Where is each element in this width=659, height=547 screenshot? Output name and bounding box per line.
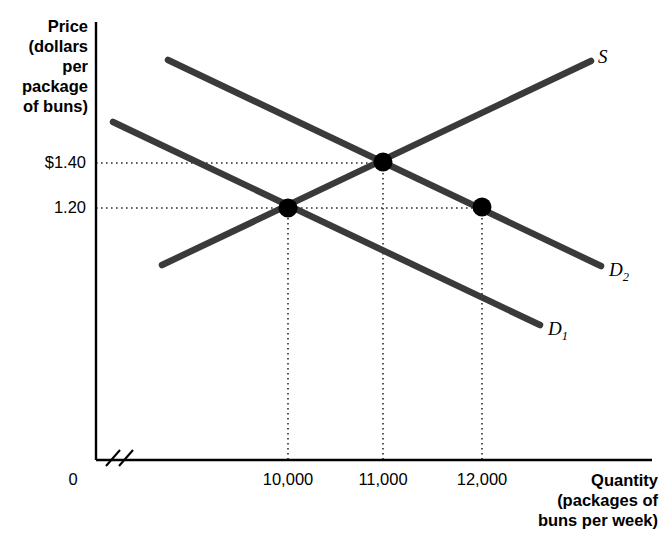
demand-curve-1 bbox=[113, 122, 540, 325]
axis-break-slash-2 bbox=[119, 450, 133, 466]
y-axis-title-line-3: per bbox=[0, 56, 88, 76]
demand-curve-1-label: D1 bbox=[548, 318, 568, 344]
supply-curve-label-text: S bbox=[598, 46, 608, 67]
axis-break-marks bbox=[106, 450, 133, 466]
y-axis-title-line-5: of buns) bbox=[0, 96, 88, 116]
axes-lines bbox=[96, 22, 652, 460]
equilibrium-dots bbox=[279, 153, 492, 218]
dot-original-equilibrium bbox=[279, 199, 298, 218]
x-axis-title-line-1: Quantity bbox=[518, 470, 658, 490]
curves bbox=[113, 60, 601, 325]
chart-plot-area bbox=[0, 0, 659, 547]
x-axis-title-line-3: buns per week) bbox=[518, 510, 658, 530]
origin-label: 0 bbox=[58, 470, 88, 489]
y-axis-title: Price (dollars per package of buns) bbox=[0, 16, 88, 116]
demand-curve-1-label-sub: 1 bbox=[562, 329, 568, 343]
demand-curve-2-label-base: D bbox=[609, 259, 623, 280]
dot-new-quantity-demanded bbox=[473, 198, 492, 217]
supply-demand-figure: Price (dollars per package of buns) Quan… bbox=[0, 0, 659, 547]
axis-break-slash-1 bbox=[106, 450, 120, 466]
demand-curve-1-label-base: D bbox=[548, 318, 562, 339]
x-axis-title-line-2: (packages of bbox=[518, 490, 658, 510]
y-tick-label-140: $1.40 bbox=[0, 153, 86, 172]
y-axis-title-line-2: (dollars bbox=[0, 36, 88, 56]
x-axis-title: Quantity (packages of buns per week) bbox=[518, 470, 658, 530]
y-tick-label-120: 1.20 bbox=[0, 198, 86, 217]
dot-new-equilibrium bbox=[374, 153, 393, 172]
x-tick-label-12000: 12,000 bbox=[427, 470, 537, 489]
supply-curve-label: S bbox=[598, 46, 608, 68]
demand-curve-2-label-sub: 2 bbox=[623, 270, 629, 284]
y-axis-title-line-1: Price bbox=[0, 16, 88, 36]
x-tick-label-10000: 10,000 bbox=[233, 470, 343, 489]
demand-curve-2-label: D2 bbox=[609, 259, 629, 285]
x-tick-label-11000: 11,000 bbox=[328, 470, 438, 489]
y-axis-title-line-4: package bbox=[0, 76, 88, 96]
